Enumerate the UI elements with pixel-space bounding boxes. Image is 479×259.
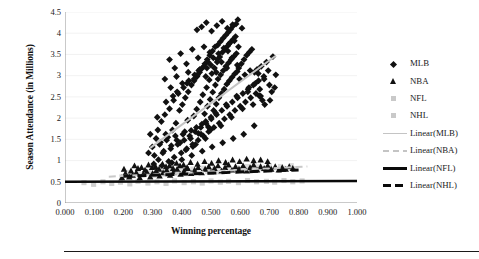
line-dashed-black-icon (382, 177, 408, 193)
legend-label: Linear(MLB) (408, 129, 458, 138)
legend-label: NHL (408, 111, 428, 120)
data-point (194, 161, 200, 167)
data-point (173, 120, 180, 127)
data-point (154, 114, 161, 121)
legend-label: NFL (408, 94, 427, 103)
line-dashed-gray-icon (382, 143, 408, 159)
legend-key-glyph (390, 78, 396, 84)
data-point (158, 118, 165, 125)
legend-item: NFL (382, 90, 478, 107)
data-point (222, 159, 228, 165)
y-tick-label: 2.5 (35, 93, 61, 102)
legend-label: NBA (408, 77, 429, 86)
data-point (230, 135, 237, 142)
legend-item: MLB (382, 55, 478, 72)
data-point (212, 82, 219, 89)
y-tick-label: 1.5 (35, 135, 61, 144)
y-tick-label: 3 (35, 71, 61, 80)
chart-figure: Season Attendance (in Millions) 00.511.5… (0, 0, 479, 259)
data-point (203, 84, 210, 91)
data-point (185, 88, 192, 95)
data-point (264, 158, 270, 164)
data-point (229, 99, 236, 106)
y-tick-label: 1 (35, 156, 61, 165)
data-point (183, 60, 190, 67)
line-solid-gray-icon (382, 125, 408, 141)
y-tick-label: 4 (35, 29, 61, 38)
data-point (155, 156, 162, 163)
legend-label: Linear(NHL) (408, 181, 457, 190)
data-point (232, 107, 239, 114)
legend-label: MLB (408, 59, 429, 68)
data-point (235, 43, 242, 50)
legend-label: Linear(NFL) (408, 164, 455, 173)
data-point (229, 157, 235, 163)
data-point (267, 97, 274, 104)
data-point (201, 43, 208, 50)
data-point (163, 99, 170, 106)
data-point (219, 139, 226, 146)
legend-item: Linear(MLB) (382, 125, 478, 142)
data-point (197, 99, 204, 106)
data-point (199, 148, 206, 155)
data-point (243, 156, 249, 162)
data-point (171, 65, 178, 72)
data-point (161, 111, 168, 118)
legend-label: Linear(NBA) (408, 146, 457, 155)
x-axis-tick-labels: 0.0000.1000.2000.3000.4000.5000.6000.700… (65, 208, 357, 220)
square-marker-light-icon (382, 108, 408, 124)
x-tick-label: 1.000 (340, 208, 374, 217)
data-point (176, 107, 183, 114)
diamond-marker-icon (382, 56, 408, 72)
figure-bottom-rule (64, 251, 479, 252)
scatter-plot-canvas (65, 12, 357, 203)
data-point (166, 105, 173, 112)
data-point (239, 25, 246, 32)
legend-key-glyph (383, 150, 407, 152)
data-point (251, 122, 258, 129)
data-point (145, 150, 152, 157)
legend-key-glyph (390, 61, 397, 68)
y-axis-tick-labels: 00.511.522.533.544.5 (33, 12, 61, 203)
data-point (247, 94, 254, 101)
data-point (265, 67, 272, 74)
legend-key-glyph (383, 133, 407, 135)
data-point (167, 84, 174, 91)
triangle-marker-icon (382, 73, 408, 89)
data-point (236, 158, 242, 164)
legend-item: Linear(NHL) (382, 177, 478, 194)
data-point (166, 56, 173, 63)
chart-legend: MLBNBANFLNHLLinear(MLB)Linear(NBA)Linear… (382, 55, 478, 194)
legend-item: NBA (382, 72, 478, 89)
data-point (188, 152, 195, 159)
data-point (272, 71, 279, 78)
trendline-linearnfl (65, 181, 357, 182)
data-point (201, 110, 208, 117)
legend-key-glyph (391, 96, 396, 101)
y-tick-label: 4.5 (35, 8, 61, 17)
data-point (215, 162, 221, 168)
data-point (250, 101, 257, 108)
data-point (209, 144, 216, 151)
data-point (203, 19, 210, 26)
square-marker-light-icon (382, 90, 408, 106)
legend-item: Linear(NFL) (382, 159, 478, 176)
data-point (170, 97, 177, 104)
data-point (173, 73, 180, 80)
data-point (151, 152, 158, 159)
plot-area (65, 12, 357, 203)
data-point (257, 157, 263, 163)
data-point (213, 22, 220, 29)
data-point (161, 76, 168, 83)
data-point (185, 69, 192, 76)
data-point (177, 50, 184, 57)
data-point (240, 131, 247, 138)
data-point (221, 116, 228, 123)
data-point (182, 94, 189, 101)
data-point (189, 46, 196, 53)
data-point (195, 54, 202, 61)
data-point (187, 159, 193, 165)
data-point (154, 127, 161, 134)
data-point (178, 156, 185, 163)
data-point (219, 18, 226, 25)
